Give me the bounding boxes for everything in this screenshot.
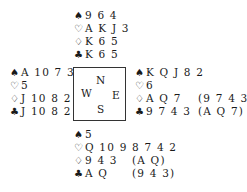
west-hearts-row: ♡5: [10, 79, 75, 92]
east-clubs: 9 7 4 3: [146, 105, 191, 117]
south-diamonds-row: ♢9 4 3 (A Q): [74, 154, 177, 167]
south-clubs-alternative: (9 4 3): [132, 167, 175, 180]
compass-east: E: [112, 90, 120, 101]
south-diamonds: 9 4 3: [85, 154, 118, 166]
heart-icon: ♡: [135, 79, 146, 92]
west-hand: ♠A 10 7 3 ♡5 ♢J 10 8 2 ♣J 10 8 2: [10, 66, 75, 118]
south-clubs: A Q: [85, 167, 108, 179]
east-diamonds: A Q 7: [146, 92, 182, 104]
compass-west: W: [81, 88, 92, 99]
south-hand: ♠5 ♡Q 10 9 8 7 4 2 ♢9 4 3 (A Q) ♣A Q (9 …: [74, 128, 177, 180]
spade-icon: ♠: [10, 66, 21, 79]
east-hearts: 6: [146, 79, 154, 91]
heart-icon: ♡: [74, 141, 85, 154]
east-hand: ♠K Q J 8 2 ♡6 ♢A Q 7 (9 7 4 3) ♣9 7 4 3 …: [135, 66, 204, 118]
north-hand: ♠9 6 4 ♡A K J 3 ♢K 6 5 ♣K 6 5: [74, 9, 130, 61]
north-hearts-row: ♡A K J 3: [74, 22, 130, 35]
south-spades: 5: [85, 128, 93, 140]
compass-north: N: [96, 75, 105, 86]
west-clubs: J 10 8 2: [21, 105, 72, 117]
compass-box: N W E S: [73, 67, 126, 121]
east-clubs-alternative: (A Q 7): [198, 105, 244, 118]
west-spades: A 10 7 3: [21, 66, 75, 78]
north-clubs-row: ♣K 6 5: [74, 48, 130, 61]
diamond-icon: ♢: [10, 92, 21, 105]
club-icon: ♣: [74, 167, 85, 180]
north-spades-row: ♠9 6 4: [74, 9, 130, 22]
north-hearts: A K J 3: [85, 22, 130, 34]
east-diamonds-row: ♢A Q 7 (9 7 4 3): [135, 92, 204, 105]
south-hearts: Q 10 9 8 7 4 2: [85, 141, 177, 153]
west-hearts: 5: [21, 79, 29, 91]
south-hearts-row: ♡Q 10 9 8 7 4 2: [74, 141, 177, 154]
club-icon: ♣: [135, 105, 146, 118]
east-clubs-row: ♣9 7 4 3 (A Q 7): [135, 105, 204, 118]
spade-icon: ♠: [74, 9, 85, 22]
east-spades: K Q J 8 2: [146, 66, 204, 78]
south-clubs-row: ♣A Q (9 4 3): [74, 167, 177, 180]
heart-icon: ♡: [10, 79, 21, 92]
spade-icon: ♠: [135, 66, 146, 79]
diamond-icon: ♢: [74, 154, 85, 167]
diamond-icon: ♢: [74, 35, 85, 48]
south-diamonds-alternative: (A Q): [132, 154, 166, 167]
south-spades-row: ♠5: [74, 128, 177, 141]
north-diamonds-row: ♢K 6 5: [74, 35, 130, 48]
west-diamonds-row: ♢J 10 8 2: [10, 92, 75, 105]
west-clubs-row: ♣J 10 8 2: [10, 105, 75, 118]
north-spades: 9 6 4: [85, 9, 118, 21]
east-hearts-row: ♡6: [135, 79, 204, 92]
club-icon: ♣: [74, 48, 85, 61]
heart-icon: ♡: [74, 22, 85, 35]
north-clubs: K 6 5: [85, 48, 119, 60]
diamond-icon: ♢: [135, 92, 146, 105]
club-icon: ♣: [10, 105, 21, 118]
north-diamonds: K 6 5: [85, 35, 119, 47]
east-spades-row: ♠K Q J 8 2: [135, 66, 204, 79]
compass-south: S: [97, 104, 104, 115]
spade-icon: ♠: [74, 128, 85, 141]
west-diamonds: J 10 8 2: [21, 92, 72, 104]
west-spades-row: ♠A 10 7 3: [10, 66, 75, 79]
east-diamonds-alternative: (9 7 4 3): [198, 92, 247, 105]
